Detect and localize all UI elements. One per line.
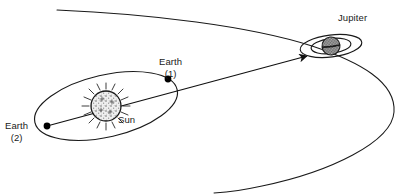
sun-label: Sun xyxy=(118,114,135,126)
jupiter-body xyxy=(299,31,363,60)
diagram-canvas xyxy=(0,0,407,194)
trajectory-diagram: Jupiter Earth (1) Earth (2) Sun xyxy=(0,0,407,194)
earth-position-2-marker xyxy=(44,123,51,130)
earth-position-1-label: Earth (1) xyxy=(159,56,182,79)
earth-position-2-label: Earth (2) xyxy=(5,120,28,143)
jupiter-label: Jupiter xyxy=(338,12,367,24)
